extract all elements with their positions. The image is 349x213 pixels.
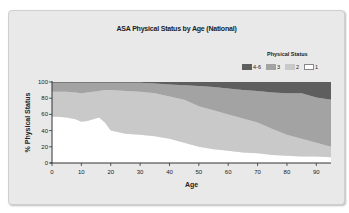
x-tick-label: 30: [137, 169, 144, 175]
x-tick-label: 90: [313, 169, 320, 175]
y-tick-label: 40: [41, 128, 48, 134]
y-tick-label: 0: [45, 160, 49, 166]
x-tick-label: 50: [195, 169, 202, 175]
x-axis-label: Age: [185, 181, 198, 189]
y-tick-label: 60: [41, 111, 48, 117]
x-tick-label: 10: [78, 169, 85, 175]
y-tick-label: 20: [41, 144, 48, 150]
x-tick-label: 60: [225, 169, 232, 175]
y-tick-label: 100: [38, 79, 49, 85]
stacked-area-chart: 0204060801000102030405060708090Age% Phys…: [0, 0, 349, 213]
x-tick-label: 80: [284, 169, 291, 175]
x-tick-label: 70: [254, 169, 261, 175]
x-tick-label: 40: [166, 169, 173, 175]
y-tick-label: 80: [41, 95, 48, 101]
y-axis-label: % Physical Status: [24, 92, 32, 152]
x-tick-label: 0: [50, 169, 54, 175]
x-tick-label: 20: [107, 169, 114, 175]
